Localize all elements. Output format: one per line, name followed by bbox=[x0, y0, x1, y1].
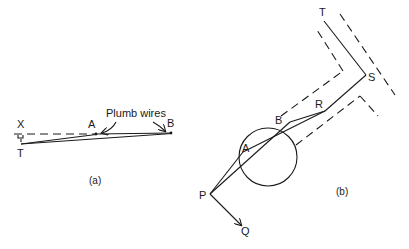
direction-arrow-p-q bbox=[210, 194, 241, 225]
surveying-diagram: X T A B Plumb wires (a) T S R B A bbox=[0, 0, 409, 249]
label-q: Q bbox=[241, 225, 250, 237]
shaft-circle bbox=[239, 128, 297, 186]
pointer-arrow-to-b bbox=[153, 122, 165, 131]
traverse-p-b bbox=[210, 122, 290, 194]
label-t-b: T bbox=[319, 6, 326, 18]
traverse-p-a bbox=[210, 152, 243, 194]
tunnel-wall-upper-upper bbox=[317, 30, 343, 71]
traverse-r-s bbox=[325, 75, 366, 111]
label-x: X bbox=[17, 118, 25, 130]
label-r: R bbox=[315, 98, 323, 110]
figure-a: X T A B Plumb wires (a) bbox=[14, 107, 174, 186]
pointer-arrow-to-a bbox=[102, 122, 116, 133]
label-plumb-wires: Plumb wires bbox=[106, 107, 166, 119]
label-b-b: B bbox=[275, 114, 282, 126]
plumb-wire-b-point bbox=[170, 132, 173, 135]
figure-b: T S R B A P Q (b) bbox=[199, 6, 395, 237]
label-a: A bbox=[88, 118, 96, 130]
tunnel-wall-lower-short bbox=[360, 96, 378, 116]
plumb-wire-a-point bbox=[95, 133, 98, 136]
label-a-b: A bbox=[242, 142, 250, 154]
label-s: S bbox=[368, 71, 375, 83]
caption-b: (b) bbox=[336, 186, 348, 197]
tunnel-wall-upper-lower bbox=[281, 71, 343, 116]
label-t: T bbox=[17, 147, 24, 159]
traverse-s-t bbox=[324, 21, 366, 75]
label-b: B bbox=[167, 117, 174, 129]
label-p: P bbox=[199, 189, 206, 201]
caption-a: (a) bbox=[89, 175, 101, 186]
right-angle-mark bbox=[18, 135, 23, 138]
